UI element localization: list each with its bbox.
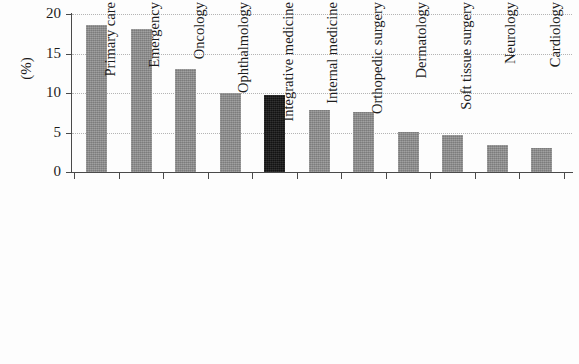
x-tick-mark (430, 173, 431, 179)
x-tick-mark (163, 173, 164, 179)
y-tick-label: 15 (21, 46, 61, 61)
x-tick-mark (386, 173, 387, 179)
x-tick-mark (297, 173, 298, 179)
y-tick-label: 0 (21, 164, 61, 179)
x-tick-mark (208, 173, 209, 179)
x-tick-label: Integrative medicine (281, 2, 296, 182)
x-tick-label: Ophthalmology (236, 2, 251, 182)
x-tick-mark (119, 173, 120, 179)
x-tick-label: Neurology (503, 2, 518, 182)
x-tick-mark (341, 173, 342, 179)
y-tick-mark (66, 172, 72, 173)
x-tick-label: Oncology (192, 2, 207, 182)
bar-chart: (%) 05101520 Primary careEmergencyOncolo… (0, 0, 579, 364)
x-tick-label: Cardiology (548, 2, 563, 182)
x-tick-label: Internal medicine (325, 2, 340, 182)
x-tick-mark (475, 173, 476, 179)
x-tick-label: Primary care (103, 2, 118, 182)
x-tick-label: Soft tissue surgery (459, 2, 474, 182)
x-tick-mark (564, 173, 565, 179)
y-tick-label: 5 (21, 125, 61, 140)
x-tick-mark (519, 173, 520, 179)
x-tick-label: Orthopedic surgery (370, 2, 385, 182)
x-tick-mark (252, 173, 253, 179)
y-tick-label: 10 (21, 85, 61, 100)
y-tick-label: 20 (21, 6, 61, 21)
x-tick-label: Emergency (147, 2, 162, 182)
x-tick-mark (74, 173, 75, 179)
x-tick-label: Dermatology (414, 2, 429, 182)
